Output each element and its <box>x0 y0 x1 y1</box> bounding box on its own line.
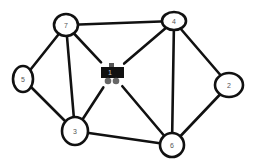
edge-4-6 <box>172 21 174 145</box>
robot-wheel-right <box>113 78 120 85</box>
node-3-label: 3 <box>73 128 77 135</box>
robot-node-label: 1 <box>108 69 112 76</box>
node-5: 5 <box>13 66 33 92</box>
edge-7-4 <box>66 21 174 25</box>
node-7: 7 <box>54 14 78 36</box>
robot-wheel-left <box>105 78 112 85</box>
node-2-label: 2 <box>227 82 231 89</box>
robot-body <box>101 67 124 78</box>
nodes-layer: 745236 <box>13 12 243 157</box>
edges-layer <box>23 21 229 145</box>
edge-3-6 <box>75 131 172 145</box>
node-3: 3 <box>62 117 88 145</box>
node-4-label: 4 <box>172 18 176 25</box>
node-5-label: 5 <box>21 76 25 83</box>
node-4: 4 <box>162 12 186 30</box>
node-6: 6 <box>160 133 184 157</box>
graph-diagram: 745236 1 <box>0 0 259 166</box>
node-7-label: 7 <box>64 22 68 29</box>
node-2: 2 <box>215 73 243 97</box>
node-6-label: 6 <box>170 142 174 149</box>
robot-node: 1 <box>101 63 124 84</box>
edge-7-3 <box>66 25 75 131</box>
